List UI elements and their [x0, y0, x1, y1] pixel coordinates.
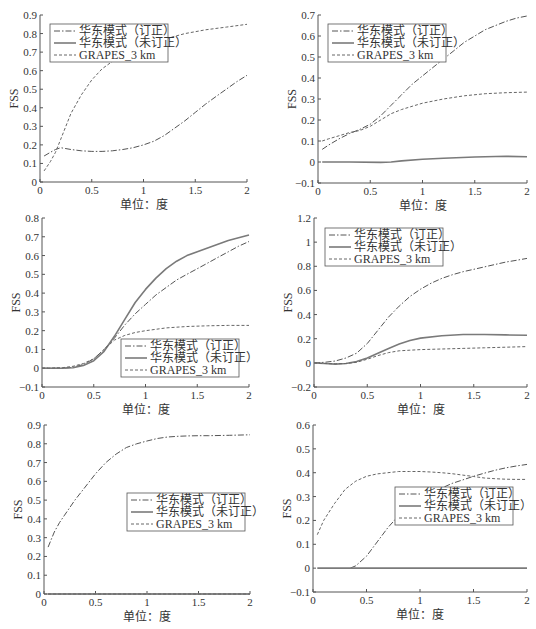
x-tick-label: 1 [418, 389, 424, 401]
legend: 华东模式（订正）华东模式（未订正）GRAPES_3 km [328, 24, 465, 62]
y-tick-label: 0.9 [27, 419, 41, 431]
x-tick-label: 0 [315, 185, 321, 197]
x-axis-label: 单位：度 [396, 607, 444, 622]
y-tick-label: 0 [310, 156, 316, 168]
legend-label: GRAPES_3 km [79, 48, 156, 62]
y-tick-label: 0.8 [23, 28, 37, 40]
x-tick-label: 2 [524, 185, 530, 197]
y-tick-label: 0.3 [25, 306, 39, 318]
series-line [314, 335, 527, 365]
legend-label: GRAPES_3 km [354, 252, 431, 266]
fss-charts-svg: 00.10.20.30.40.50.60.70.80.900.511.52单位：… [0, 0, 536, 629]
y-tick-label: 0.4 [25, 287, 39, 299]
y-tick-label: 1 [306, 236, 312, 248]
chart-panel-1: 00.10.20.30.40.50.60.70.80.900.511.52单位：… [7, 9, 250, 212]
x-tick-label: 1.5 [188, 184, 202, 196]
x-tick-label: 0.5 [85, 184, 99, 196]
y-axis-label: FSS [280, 498, 294, 518]
chart-panel-3: −0.100.10.20.30.40.50.60.70.800.511.52单位… [9, 212, 258, 417]
chart-panel-4: −0.200.20.40.60.811.200.511.52单位：度FSS华东模… [281, 212, 530, 417]
x-tick-label: 0.5 [87, 389, 101, 401]
chart-panel-5: 00.10.20.30.40.50.60.70.80.900.511.52单位：… [11, 419, 264, 624]
y-tick-label: 0.3 [301, 93, 315, 105]
y-tick-label: 0.1 [301, 135, 315, 147]
y-tick-label: 0.1 [27, 569, 41, 581]
y-tick-label: 0.5 [27, 494, 41, 506]
y-axis-label: FSS [281, 292, 295, 312]
y-tick-label: 0.2 [301, 114, 315, 126]
x-tick-label: 0.5 [360, 594, 374, 606]
y-tick-label: −0.2 [291, 381, 311, 393]
y-tick-label: 0.7 [23, 46, 37, 58]
x-tick-label: 1 [420, 185, 426, 197]
x-tick-label: 0.5 [89, 596, 103, 608]
y-tick-label: 0.2 [25, 325, 39, 337]
y-tick-label: −0.1 [19, 381, 39, 393]
x-tick-label: 0 [311, 389, 317, 401]
legend-label: GRAPES_3 km [357, 48, 434, 62]
x-tick-label: 0.5 [363, 185, 377, 197]
y-tick-label: 0.7 [27, 457, 41, 469]
y-tick-label: 0.7 [25, 231, 39, 243]
x-tick-label: 1.5 [190, 389, 204, 401]
x-axis-label: 单位：度 [123, 609, 171, 624]
legend: 华东模式（订正）华东模式（未订正）GRAPES_3 km [50, 24, 187, 62]
x-tick-label: 1 [144, 596, 150, 608]
y-tick-label: 0.8 [25, 212, 39, 224]
y-tick-label: 0.6 [23, 65, 37, 77]
y-tick-label: 0.2 [296, 514, 310, 526]
x-tick-label: 2 [247, 596, 253, 608]
y-tick-label: 0.5 [301, 51, 315, 63]
x-axis-label: 单位：度 [122, 402, 170, 417]
series-line [322, 156, 527, 162]
y-axis-label: FSS [285, 89, 299, 109]
x-tick-label: 1.5 [468, 185, 482, 197]
x-axis-label: 单位：度 [120, 197, 168, 212]
legend-label: GRAPES_3 km [150, 363, 227, 377]
x-tick-label: 1.5 [467, 389, 481, 401]
y-tick-label: 0.6 [301, 30, 315, 42]
y-tick-label: 0.1 [296, 538, 310, 550]
x-tick-label: 2 [246, 389, 252, 401]
y-tick-label: 0.1 [23, 157, 37, 169]
x-tick-label: 2 [524, 594, 530, 606]
y-tick-label: 0.5 [25, 268, 39, 280]
x-tick-label: 0 [310, 594, 316, 606]
fss-figure: 00.10.20.30.40.50.60.70.80.900.511.52单位：… [0, 0, 536, 629]
y-tick-label: −0.1 [290, 586, 310, 598]
x-tick-label: 1 [417, 594, 423, 606]
y-tick-label: 0.6 [27, 475, 41, 487]
x-axis-label: 单位：度 [399, 198, 447, 213]
y-tick-label: 0.6 [296, 419, 310, 431]
y-tick-label: 0.9 [23, 9, 37, 21]
y-axis-label: FSS [7, 88, 21, 108]
legend: 华东模式（订正）华东模式（未订正）GRAPES_3 km [127, 493, 264, 531]
x-tick-label: 2 [524, 389, 530, 401]
x-tick-label: 2 [244, 184, 250, 196]
y-tick-label: 0.6 [297, 284, 311, 296]
series-line [314, 347, 527, 364]
x-axis-label: 单位：度 [397, 402, 445, 417]
y-tick-label: 0.2 [27, 550, 41, 562]
x-tick-label: 0 [37, 184, 43, 196]
y-tick-label: 0.6 [25, 250, 39, 262]
y-tick-label: 0 [34, 362, 40, 374]
series-line [44, 75, 247, 156]
legend-label: GRAPES_3 km [424, 511, 501, 525]
y-tick-label: 0.4 [296, 467, 310, 479]
y-tick-label: 0.3 [27, 532, 41, 544]
chart-panel-6: −0.100.10.20.30.40.50.600.511.52单位：度FSS华… [280, 419, 532, 622]
y-tick-label: 0.1 [25, 343, 39, 355]
y-tick-label: 0.5 [23, 83, 37, 95]
y-tick-label: 0.4 [23, 102, 37, 114]
y-tick-label: 0.8 [297, 260, 311, 272]
y-tick-label: 0.4 [297, 309, 311, 321]
y-axis-label: FSS [9, 292, 23, 312]
y-axis-label: FSS [11, 499, 25, 519]
legend: 华东模式（订正）华东模式（未订正）GRAPES_3 km [121, 339, 258, 377]
x-tick-label: 1.5 [467, 594, 481, 606]
legend: 华东模式（订正）华东模式（未订正）GRAPES_3 km [395, 487, 532, 525]
x-tick-label: 1.5 [192, 596, 206, 608]
y-tick-label: 0.2 [23, 139, 37, 151]
legend: 华东模式（订正）华东模式（未订正）GRAPES_3 km [325, 228, 462, 266]
